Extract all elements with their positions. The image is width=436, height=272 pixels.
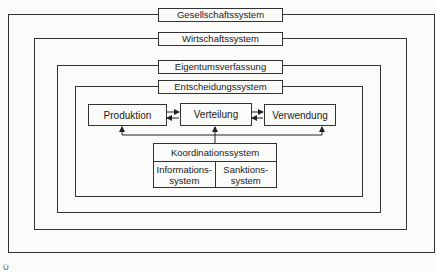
box-produktion: Produktion bbox=[88, 104, 167, 126]
flow-arrows bbox=[0, 0, 436, 272]
box-koordinationssystem: Koordinationssystem Informations- system… bbox=[153, 143, 277, 188]
informationssystem-cell: Informations- system bbox=[154, 162, 216, 188]
box-verteilung: Verteilung bbox=[180, 103, 252, 126]
koordinationssystem-title: Koordinationssystem bbox=[154, 144, 276, 162]
sanktionssystem-cell: Sanktions- system bbox=[216, 162, 277, 188]
box-verwendung: Verwendung bbox=[264, 104, 336, 126]
corner-mark: Ü bbox=[3, 263, 9, 272]
